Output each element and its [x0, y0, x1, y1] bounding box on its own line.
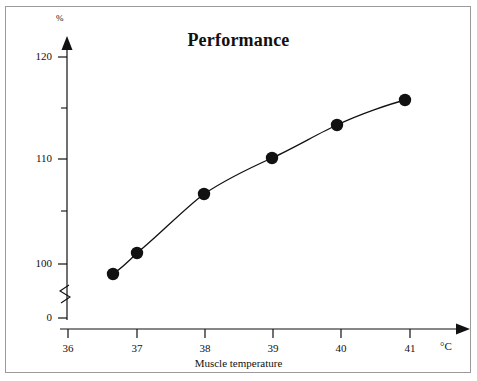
y-axis	[62, 36, 73, 320]
data-point	[266, 152, 278, 164]
chart-page: Performance % 120 110 100 0 36 37 38 39 …	[0, 0, 477, 381]
y-tick-marks-major	[58, 57, 67, 318]
x-tick-label-38: 38	[190, 343, 220, 354]
data-series-performance	[113, 100, 405, 274]
data-point-markers	[107, 94, 411, 280]
x-tick-label-39: 39	[258, 343, 288, 354]
y-tick-label-0: 0	[18, 312, 52, 323]
plot-area	[0, 0, 477, 381]
y-tick-label-100: 100	[18, 258, 52, 269]
data-point	[131, 247, 143, 259]
x-tick-label-41: 41	[395, 343, 425, 354]
x-axis-title: Muscle temperature	[0, 358, 477, 369]
y-tick-label-110: 110	[18, 153, 52, 164]
y-axis-unit-label: %	[56, 14, 64, 23]
data-point	[107, 268, 119, 280]
data-point	[331, 119, 343, 131]
y-axis-break-icon	[60, 285, 70, 303]
x-tick-marks	[68, 329, 410, 338]
chart-title: Performance	[0, 31, 477, 49]
x-tick-label-37: 37	[122, 343, 152, 354]
data-point	[399, 94, 411, 106]
x-tick-label-40: 40	[326, 343, 356, 354]
x-axis-unit-label: °C	[440, 341, 452, 352]
y-tick-label-120: 120	[18, 51, 52, 62]
data-point	[198, 188, 210, 200]
x-axis	[60, 324, 470, 335]
x-tick-label-36: 36	[53, 343, 83, 354]
